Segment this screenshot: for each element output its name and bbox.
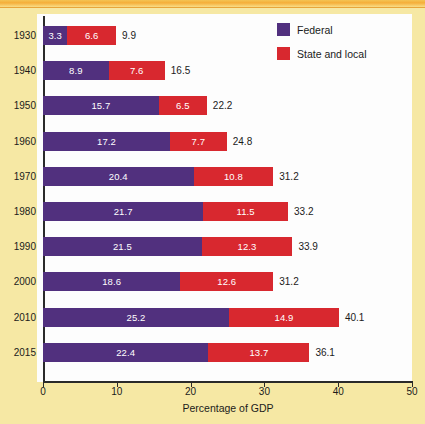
bar-value-label-state-and-local: 14.9	[229, 308, 339, 327]
bar-segment-federal[interactable]: 20.4	[43, 167, 194, 186]
x-axis-tick-label: 30	[244, 386, 284, 397]
bar-total-label: 16.5	[165, 61, 190, 80]
bar-segment-state-and-local[interactable]: 14.9	[229, 308, 339, 327]
y-axis-category-label: 1980	[0, 202, 36, 221]
x-axis-tick-label: 40	[318, 386, 358, 397]
bar-segment-state-and-local[interactable]: 13.7	[208, 343, 309, 362]
legend-label-federal: Federal	[297, 24, 333, 36]
x-axis-title: Percentage of GDP	[43, 402, 413, 414]
y-axis-category-label: 2015	[0, 343, 36, 362]
chart-legend: Federal State and local	[277, 21, 366, 69]
bar-value-label-state-and-local: 6.6	[67, 26, 116, 45]
bar-value-label-federal: 21.7	[43, 202, 203, 221]
bar-value-label-federal: 3.3	[43, 26, 67, 45]
bar-segment-state-and-local[interactable]: 12.3	[202, 237, 293, 256]
bar-segment-federal[interactable]: 21.5	[43, 237, 202, 256]
y-axis-category-label: 2010	[0, 308, 36, 327]
bar-value-label-federal: 21.5	[43, 237, 202, 256]
bar-segment-state-and-local[interactable]: 10.8	[194, 167, 274, 186]
bar-total-label: 31.2	[273, 167, 298, 186]
bar-total-label: 33.2	[288, 202, 313, 221]
bar-segment-federal[interactable]: 17.2	[43, 132, 170, 151]
bar-row: 20.410.8	[43, 167, 273, 186]
bar-row: 17.27.7	[43, 132, 227, 151]
x-axis-tick-label: 50	[392, 386, 425, 397]
bar-segment-federal[interactable]: 25.2	[43, 308, 229, 327]
bar-value-label-federal: 8.9	[43, 61, 109, 80]
bar-segment-state-and-local[interactable]: 7.7	[170, 132, 227, 151]
bar-value-label-state-and-local: 12.3	[202, 237, 293, 256]
y-axis-category-label: 1950	[0, 96, 36, 115]
bar-value-label-state-and-local: 7.7	[170, 132, 227, 151]
bar-value-label-federal: 17.2	[43, 132, 170, 151]
bar-value-label-state-and-local: 7.6	[109, 61, 165, 80]
bar-segment-state-and-local[interactable]: 7.6	[109, 61, 165, 80]
bar-total-label: 9.9	[116, 26, 136, 45]
bar-row: 21.711.5	[43, 202, 288, 221]
x-axis-tick-label: 20	[171, 386, 211, 397]
bar-segment-state-and-local[interactable]: 6.6	[67, 26, 116, 45]
y-axis-category-label: 1990	[0, 237, 36, 256]
bar-total-label: 31.2	[273, 272, 298, 291]
bar-value-label-federal: 18.6	[43, 272, 180, 291]
bar-total-label: 36.1	[309, 343, 334, 362]
bar-value-label-state-and-local: 11.5	[203, 202, 288, 221]
chart-figure: 19303.36.69.919408.97.616.5195015.76.522…	[0, 0, 425, 424]
bar-row: 8.97.6	[43, 61, 165, 80]
bar-row: 21.512.3	[43, 237, 292, 256]
bar-segment-federal[interactable]: 3.3	[43, 26, 67, 45]
bar-value-label-federal: 22.4	[43, 343, 208, 362]
legend-swatch-state-and-local-icon	[277, 47, 290, 60]
bar-value-label-federal: 20.4	[43, 167, 194, 186]
bar-segment-federal[interactable]: 22.4	[43, 343, 208, 362]
bar-total-label: 40.1	[339, 308, 364, 327]
bar-row: 15.76.5	[43, 96, 207, 115]
bar-row: 3.36.6	[43, 26, 116, 45]
legend-swatch-federal-icon	[277, 23, 290, 36]
bar-segment-federal[interactable]: 15.7	[43, 96, 159, 115]
bar-segment-federal[interactable]: 18.6	[43, 272, 180, 291]
bar-total-label: 24.8	[227, 132, 252, 151]
x-axis-line	[43, 381, 413, 383]
x-axis-tick-label: 10	[97, 386, 137, 397]
y-axis-category-label: 1960	[0, 132, 36, 151]
bar-total-label: 22.2	[207, 96, 232, 115]
bar-segment-federal[interactable]: 8.9	[43, 61, 109, 80]
bar-total-label: 33.9	[292, 237, 317, 256]
bar-segment-state-and-local[interactable]: 6.5	[159, 96, 207, 115]
y-axis-category-label: 1940	[0, 61, 36, 80]
bar-segment-state-and-local[interactable]: 11.5	[203, 202, 288, 221]
legend-label-state-and-local: State and local	[297, 48, 366, 60]
bar-value-label-state-and-local: 6.5	[159, 96, 207, 115]
bar-value-label-state-and-local: 10.8	[194, 167, 274, 186]
legend-item-state-and-local[interactable]: State and local	[277, 45, 366, 62]
legend-item-federal[interactable]: Federal	[277, 21, 366, 38]
bar-segment-federal[interactable]: 21.7	[43, 202, 203, 221]
bar-value-label-state-and-local: 13.7	[208, 343, 309, 362]
bar-segment-state-and-local[interactable]: 12.6	[180, 272, 273, 291]
y-axis-category-label: 2000	[0, 272, 36, 291]
bar-value-label-federal: 25.2	[43, 308, 229, 327]
y-axis-category-label: 1930	[0, 26, 36, 45]
bar-value-label-state-and-local: 12.6	[180, 272, 273, 291]
decorative-top-band-rule	[0, 7, 425, 8]
y-axis-category-label: 1970	[0, 167, 36, 186]
bar-row: 22.413.7	[43, 343, 309, 362]
x-axis-tick-label: 0	[23, 386, 63, 397]
bar-row: 25.214.9	[43, 308, 339, 327]
bar-value-label-federal: 15.7	[43, 96, 159, 115]
bar-row: 18.612.6	[43, 272, 273, 291]
